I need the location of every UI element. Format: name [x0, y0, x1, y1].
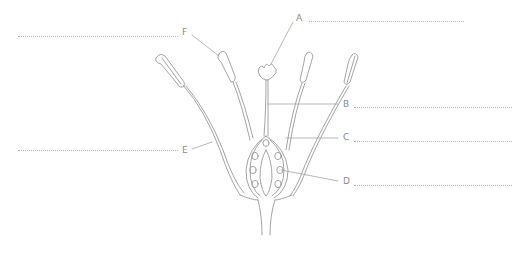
leader-e: [192, 142, 212, 149]
leader-a: [271, 22, 293, 64]
stamen-right: [286, 52, 313, 150]
label-a: A: [296, 13, 302, 23]
stigma: [258, 64, 276, 80]
answer-blank-f[interactable]: [18, 36, 178, 37]
label-f: F: [182, 27, 187, 37]
leader-lines: [192, 22, 338, 181]
flower-diagram: [0, 0, 528, 259]
pistil-style: [264, 80, 268, 136]
stamen-left: [218, 51, 253, 140]
label-d: D: [343, 176, 350, 186]
leader-f: [192, 35, 219, 56]
stamen-far-right: [290, 53, 358, 196]
leader-d: [281, 170, 338, 181]
answer-blank-c[interactable]: [354, 141, 512, 142]
label-c: C: [343, 132, 349, 142]
stamen-far-left: [156, 54, 244, 195]
answer-blank-e[interactable]: [18, 150, 178, 151]
ovary: [246, 136, 288, 198]
answer-blank-a[interactable]: [309, 21, 464, 22]
label-b: B: [343, 99, 349, 109]
flower-stalk: [240, 195, 292, 235]
label-e: E: [182, 145, 188, 155]
answer-blank-b[interactable]: [354, 107, 512, 108]
answer-blank-d[interactable]: [354, 185, 512, 186]
